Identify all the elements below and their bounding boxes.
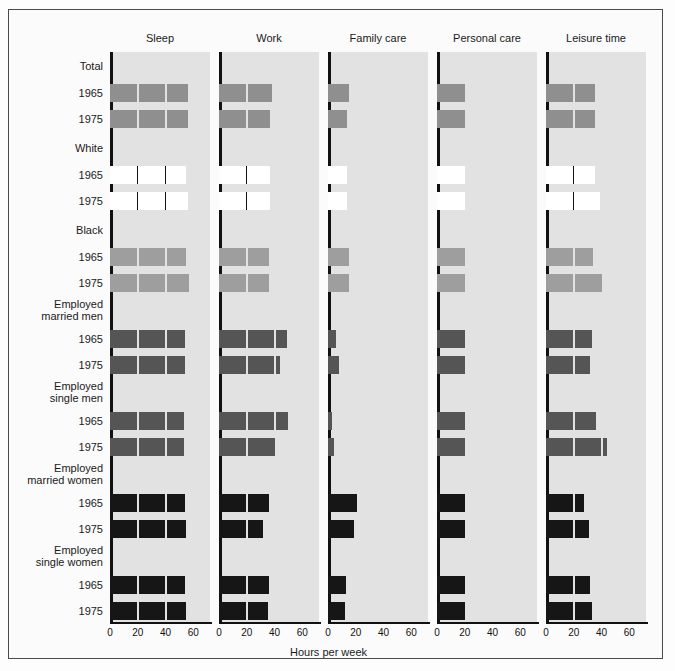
bar-gridline (137, 110, 139, 128)
row-group-label: Employedmarried women (8, 462, 103, 486)
x-tick-label: 60 (182, 627, 204, 638)
row-group-label-line1: Employed (8, 298, 103, 310)
bar (328, 356, 339, 374)
bar (110, 274, 189, 292)
bar-gridline (246, 412, 248, 430)
chart-figure: SleepWorkFamily carePersonal careLeisure… (0, 0, 675, 671)
bar-gridline (573, 330, 575, 348)
x-axis-line (219, 622, 321, 624)
bar-gridline (573, 248, 575, 266)
bar (110, 192, 188, 210)
bar (110, 248, 186, 266)
bar-gridline (246, 576, 248, 594)
column-header-personal-care: Personal care (427, 32, 547, 44)
bar (546, 166, 595, 184)
row-year-label: 1965 (57, 169, 103, 181)
bar (546, 494, 584, 512)
x-tick-label: 40 (264, 627, 286, 638)
x-tick-label: 0 (99, 627, 121, 638)
row-group-label-line1: Employed (8, 462, 103, 474)
bar-gridline (246, 192, 247, 210)
bar (546, 576, 590, 594)
bar (328, 248, 349, 266)
bar (219, 520, 263, 538)
bar-gridline (573, 110, 575, 128)
x-axis-line (110, 622, 212, 624)
bar (110, 330, 185, 348)
bar-gridline (165, 248, 167, 266)
bar-gridline (165, 494, 167, 512)
bar (546, 84, 595, 102)
x-tick-label: 40 (591, 627, 613, 638)
bar-gridline (573, 576, 575, 594)
bar-gridline (137, 192, 138, 210)
bar-gridline (137, 84, 139, 102)
bar (437, 412, 465, 430)
bar (437, 494, 465, 512)
row-year-label: 1975 (57, 359, 103, 371)
bar-gridline (573, 192, 574, 210)
bar (437, 330, 465, 348)
bar (546, 412, 596, 430)
bar-gridline (137, 248, 139, 266)
bar-gridline (165, 520, 167, 538)
bar (219, 274, 269, 292)
bar-gridline (165, 602, 167, 620)
x-tick-label: 20 (127, 627, 149, 638)
panel-family-care (328, 52, 428, 622)
bar (546, 192, 600, 210)
bar-gridline (165, 274, 167, 292)
x-tick-label: 40 (373, 627, 395, 638)
bar (219, 330, 287, 348)
x-tick-label: 60 (400, 627, 422, 638)
panel-leisure-time (546, 52, 646, 622)
bar (110, 576, 185, 594)
bar-gridline (137, 412, 139, 430)
bar (546, 110, 595, 128)
x-tick-label: 40 (482, 627, 504, 638)
x-tick-label: 0 (426, 627, 448, 638)
row-year-label: 1965 (57, 251, 103, 263)
row-group-label: White (8, 142, 103, 154)
bar (219, 602, 268, 620)
row-group-label-line1: White (8, 142, 103, 154)
x-axis-line (546, 622, 648, 624)
bar (546, 274, 602, 292)
bar-gridline (246, 494, 248, 512)
bar-gridline (573, 520, 575, 538)
bar (328, 576, 346, 594)
x-tick-label: 0 (208, 627, 230, 638)
bar (437, 192, 465, 210)
row-group-label-line2: married men (8, 310, 103, 322)
bar-gridline (165, 356, 167, 374)
row-group-label: Employedsingle men (8, 380, 103, 404)
bar (328, 602, 345, 620)
bar (437, 576, 465, 594)
bar (437, 274, 465, 292)
bar-gridline (137, 438, 139, 456)
bar (110, 494, 185, 512)
bar (219, 248, 269, 266)
bar-gridline (137, 166, 138, 184)
bar-gridline (246, 602, 248, 620)
row-year-label: 1975 (57, 441, 103, 453)
bar-gridline (246, 110, 248, 128)
row-group-label: Total (8, 60, 103, 72)
row-year-label: 1975 (57, 113, 103, 125)
bar-gridline (165, 330, 167, 348)
bar (110, 110, 188, 128)
bar (437, 602, 465, 620)
x-tick-label: 0 (317, 627, 339, 638)
bar (437, 356, 465, 374)
bar-gridline (573, 274, 575, 292)
bar-gridline (137, 602, 139, 620)
row-group-label: Employedmarried men (8, 298, 103, 322)
bar (219, 110, 270, 128)
column-header-family-care: Family care (318, 32, 438, 44)
bar (437, 438, 465, 456)
row-group-label-line1: Employed (8, 380, 103, 392)
bar (328, 494, 357, 512)
bar-gridline (573, 602, 575, 620)
bar-gridline (246, 84, 248, 102)
x-tick-label: 60 (291, 627, 313, 638)
